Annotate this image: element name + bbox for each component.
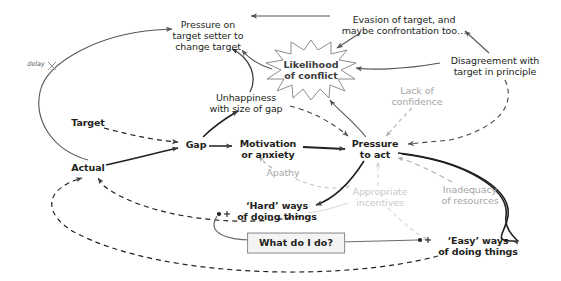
delay-marker-icon [48,62,56,70]
link-unhappiness-to-pressure-on-target-setter [232,49,253,92]
node-likelihood-of-conflict: Likelihood of conflict [284,59,339,82]
node-lack-of-confidence: Lack of confidence [391,85,442,107]
link-disagreement-to-evasion [465,31,489,53]
link-conflict-to-pressure-on-target-setter [242,50,272,69]
node-motivation-or-anxiety: Motivation or anxiety [240,138,296,160]
link-apathy-to-pressure-to-act [296,179,350,188]
link-pressure-to-act-to-conflict [330,100,366,137]
node-hard-ways-of-doing-things: ‘Hard’ ways of doing things [237,200,317,222]
link-what-do-i-do-to-easy-ways [340,240,418,242]
node-gap: Gap [186,139,207,150]
node-pressure-on-target-setter: Pressure on target setter to change targ… [173,19,244,53]
link-target-to-gap [104,128,178,142]
node-appropriate-incentives: Appropriate incentives [353,186,408,208]
link-motivation-to-pressure-to-act [303,147,345,149]
node-what-do-i-do[interactable]: What do I do? [247,233,345,254]
node-inadequacy-of-resources: Inadequacy of resources [441,184,498,206]
node-unhappiness-with-size-of-gap: Unhappiness with size of gap [209,92,282,114]
link-disagreement-to-conflict [356,63,440,69]
node-actual: Actual [71,162,104,173]
node-evasion-of-target: Evasion of target, and maybe confrontati… [342,14,467,36]
node-apathy: Apathy [266,167,299,178]
node-target: Target [71,117,105,128]
link-unhappiness-to-pressure-to-act [290,106,348,136]
delay-label: delay [27,61,44,69]
causal-loop-diagram: Pressure on target setter to change targ… [0,0,561,281]
node-easy-ways-of-doing-things: ‘Easy’ ways of doing things [438,235,518,257]
link-incentives-to-easy-ways [388,208,428,240]
hard-ways-junction-marker [217,211,230,217]
node-pressure-to-act: Pressure to act [352,138,399,160]
link-actual-to-pressure-on-target-setter [39,29,172,160]
node-disagreement-with-target: Disagreement with target in principle [451,55,539,77]
link-gap-to-unhappiness [203,111,238,137]
link-lack-of-confidence-to-pressure-to-act [386,108,412,136]
link-actual-to-gap [106,148,178,165]
